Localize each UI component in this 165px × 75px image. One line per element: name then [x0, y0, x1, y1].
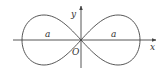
lemniscate-diagram: x y O a a	[0, 0, 165, 75]
x-axis-label: x	[150, 42, 155, 52]
origin-label: O	[72, 47, 80, 57]
left-loop-label: a	[45, 29, 50, 39]
right-loop-label: a	[111, 29, 116, 39]
y-axis-label: y	[70, 9, 77, 19]
